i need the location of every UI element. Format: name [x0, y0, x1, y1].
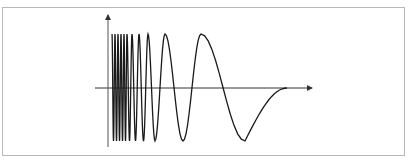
chirp-diagram [0, 0, 410, 163]
